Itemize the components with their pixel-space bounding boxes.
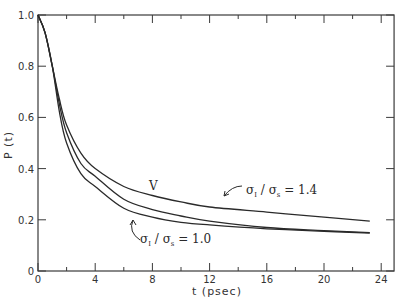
y-axis-label: P (t) [2,131,15,159]
x-tick-label: 0 [35,274,41,285]
arrow-icon [132,220,140,240]
chart-canvas: 0481216202400.20.40.60.81.0 t (psec) P (… [0,0,404,300]
y-tick-label: 1.0 [18,10,34,21]
arrowhead-icon [130,220,136,225]
y-tick-label: 0.2 [18,215,34,226]
annotation-ratio-1-4-text: σI / σs = 1.4 [246,183,318,199]
x-tick-label: 12 [203,274,216,285]
annotation-ratio-1-4: σI / σs = 1.4 [224,183,318,199]
y-tick-label: 0.4 [18,164,34,175]
y-tick-label: 0.6 [18,112,34,123]
y-tick-label: 0.8 [18,61,34,72]
x-tick-label: 8 [149,274,155,285]
curve-series-1 [38,15,370,233]
y-tick-label: 0 [28,266,34,277]
x-tick-label: 20 [318,274,331,285]
x-tick-label: 4 [92,274,98,285]
annotation-v: V [148,179,158,193]
data-curves [38,15,370,233]
annotation-ratio-1-0-text: σI / σs = 1.0 [140,232,211,248]
curve-series-0 [38,15,370,221]
curve-series-2 [38,15,370,233]
x-axis-label: t (psec) [192,285,242,298]
x-tick-label: 24 [375,274,388,285]
x-tick-label: 16 [260,274,273,285]
